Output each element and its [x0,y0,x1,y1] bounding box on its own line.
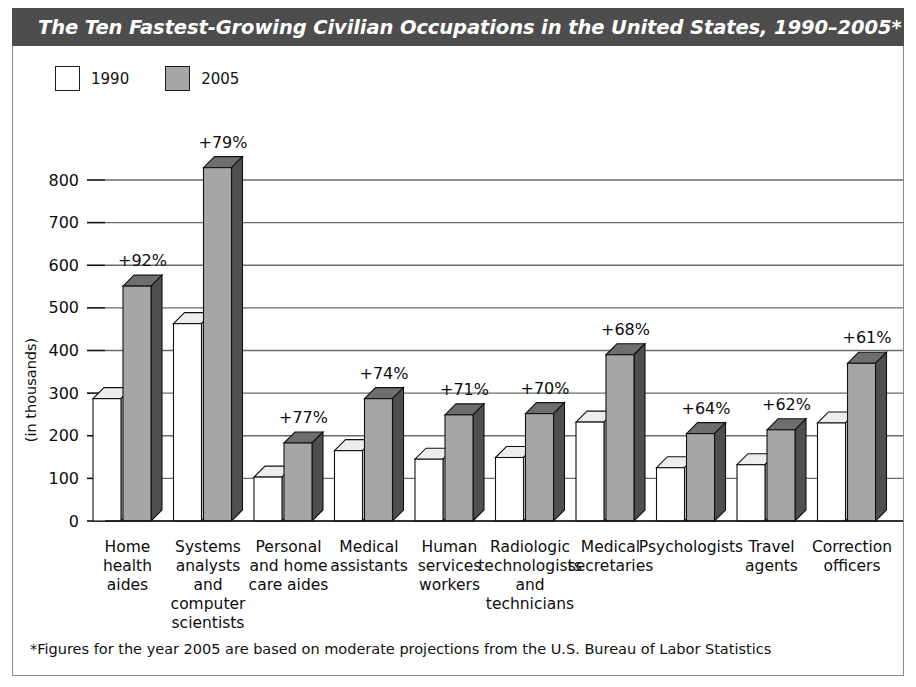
legend-item-2005: 2005 [165,66,239,91]
legend-label-2005: 2005 [201,70,239,88]
chart-footnote: *Figures for the year 2005 are based on … [30,641,771,657]
legend-swatch-1990 [55,66,80,91]
chart-frame [12,8,904,676]
legend-label-1990: 1990 [91,70,129,88]
chart-page: The Ten Fastest-Growing Civilian Occupat… [0,0,916,687]
chart-title-bar: The Ten Fastest-Growing Civilian Occupat… [12,8,904,46]
chart-legend: 1990 2005 [55,66,239,91]
footnote-divider [13,628,903,629]
chart-title: The Ten Fastest-Growing Civilian Occupat… [38,16,902,39]
legend-swatch-2005 [165,66,190,91]
legend-item-1990: 1990 [55,66,129,91]
